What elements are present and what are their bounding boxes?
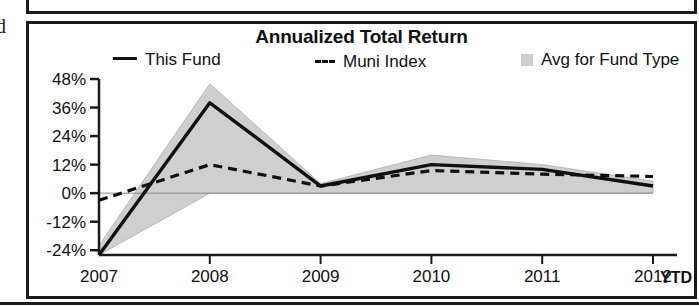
plot-area: 48%36%24%12%0%-12%-24% 20072008200920102… bbox=[29, 24, 699, 302]
x-axis-tick-label: 2011 bbox=[507, 268, 577, 285]
x-axis-tick-label: 2010 bbox=[396, 268, 466, 285]
y-axis-tick-label: -12% bbox=[24, 214, 86, 231]
y-axis-tick-label: 0% bbox=[24, 185, 86, 202]
plot-svg bbox=[29, 24, 699, 302]
x-axis-tick-label: 2007 bbox=[64, 268, 134, 285]
upper-panel-bottom-edge bbox=[26, 0, 697, 14]
y-axis-tick-label: 48% bbox=[24, 71, 86, 88]
figure-bottom-rule bbox=[0, 302, 699, 305]
y-axis-tick-label: 24% bbox=[24, 128, 86, 145]
x-axis-tick-label: 2008 bbox=[175, 268, 245, 285]
y-axis-tick-label: 12% bbox=[24, 157, 86, 174]
avg-for-fund-type-band bbox=[99, 84, 653, 255]
y-axis-tick-label: -24% bbox=[24, 242, 86, 259]
page-left-bleed-text: d bbox=[0, 16, 6, 36]
y-axis-tick-label: 36% bbox=[24, 100, 86, 117]
ytd-annotation: YTD bbox=[660, 270, 692, 286]
annualized-total-return-panel: Annualized Total Return This Fund Muni I… bbox=[26, 21, 697, 299]
x-axis-tick-label: 2009 bbox=[286, 268, 356, 285]
